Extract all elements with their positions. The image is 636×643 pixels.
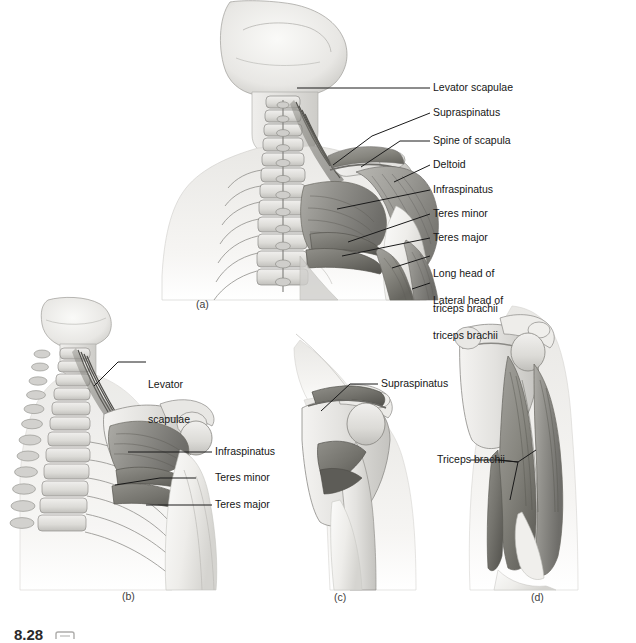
label-a-deltoid: Deltoid: [433, 159, 466, 171]
label-a-levator-scapulae: Levator scapulae: [433, 82, 513, 94]
label-b-levator-scapulae: Levator scapulae: [148, 356, 190, 448]
label-b-teres-minor: Teres minor: [215, 472, 270, 484]
caption-media-icon: [56, 632, 74, 639]
label-a-spine-of-scapula: Spine of scapula: [433, 135, 511, 147]
label-a-supraspinatus: Supraspinatus: [433, 107, 500, 119]
label-a-infraspinatus: Infraspinatus: [433, 184, 493, 196]
label-c-supraspinatus: Supraspinatus: [381, 378, 448, 390]
panel-a-artwork: [162, 1, 438, 300]
label-a-lateral-head-triceps: Lateral head of triceps brachii: [433, 272, 503, 364]
label-b-levator-scapulae-line1: Levator: [148, 379, 190, 391]
label-a-teres-major: Teres major: [433, 232, 488, 244]
panel-letter-c: (c): [334, 591, 346, 603]
label-d-triceps-brachii: Triceps brachii: [437, 454, 505, 466]
panel-letter-a: (a): [196, 298, 209, 310]
label-a-lateral-head-triceps-line2: triceps brachii: [433, 330, 503, 342]
label-a-lateral-head-triceps-line1: Lateral head of: [433, 295, 503, 307]
panel-letter-b: (b): [122, 590, 135, 602]
figure-number: 8.28: [14, 626, 43, 643]
panel-letter-d: (d): [531, 591, 544, 603]
panel-c-artwork: [294, 334, 416, 590]
label-b-teres-major: Teres major: [215, 499, 270, 511]
label-a-teres-minor: Teres minor: [433, 208, 488, 220]
label-b-levator-scapulae-line2: scapulae: [148, 414, 190, 426]
label-b-infraspinatus: Infraspinatus: [215, 446, 275, 458]
